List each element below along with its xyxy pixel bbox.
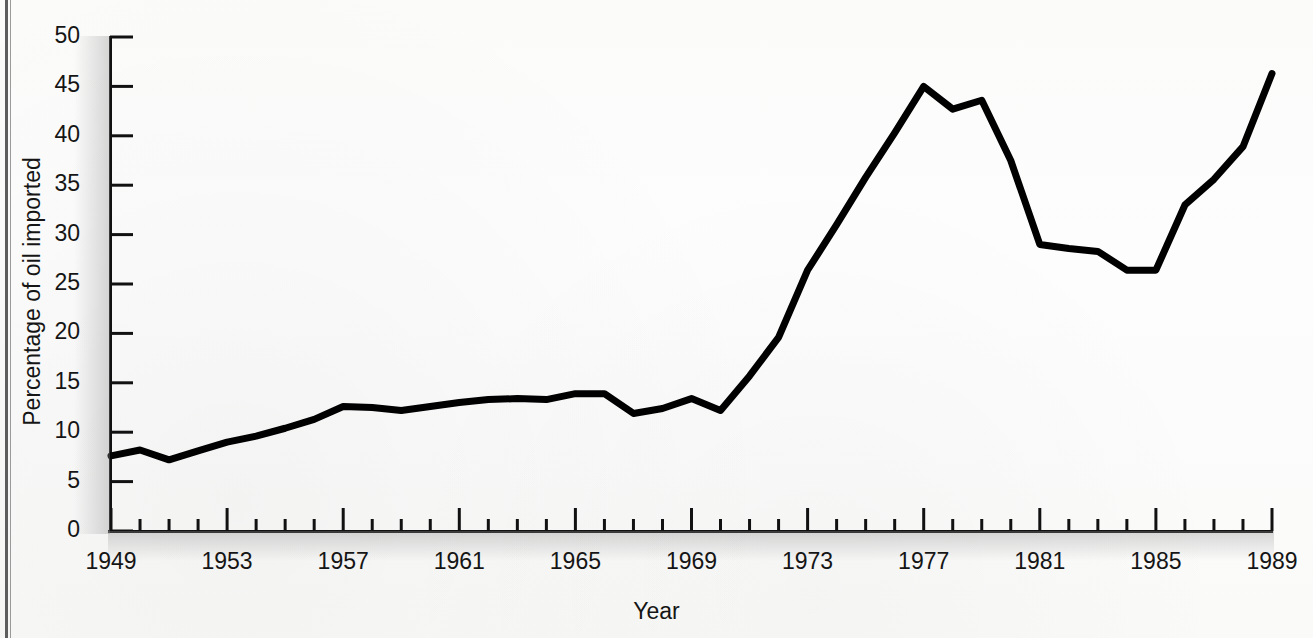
x-axis-ticks [111, 508, 1272, 531]
data-series-group [111, 74, 1272, 460]
x-tick-label: 1969 [632, 548, 752, 575]
chart-canvas [0, 0, 1313, 638]
x-tick-label: 1961 [399, 548, 519, 575]
x-tick-label: 1981 [980, 548, 1100, 575]
x-tick-label: 1973 [748, 548, 868, 575]
x-tick-label: 1985 [1096, 548, 1216, 575]
line-chart: 05101520253035404550 1949195319571961196… [0, 0, 1313, 638]
x-axis-title: Year [0, 598, 1313, 625]
y-tick-label: 5 [20, 467, 80, 494]
x-tick-label: 1953 [167, 548, 287, 575]
y-tick-label: 0 [20, 516, 80, 543]
x-tick-label: 1989 [1212, 548, 1313, 575]
axes [108, 36, 1273, 532]
y-tick-label: 45 [20, 71, 80, 98]
y-axis-title: Percentage of oil imported [19, 142, 46, 442]
data-line-oil-imports [111, 74, 1272, 460]
x-tick-label: 1965 [515, 548, 635, 575]
x-tick-label: 1949 [51, 548, 171, 575]
x-tick-label: 1977 [864, 548, 984, 575]
x-tick-label: 1957 [283, 548, 403, 575]
y-tick-label: 50 [20, 22, 80, 49]
